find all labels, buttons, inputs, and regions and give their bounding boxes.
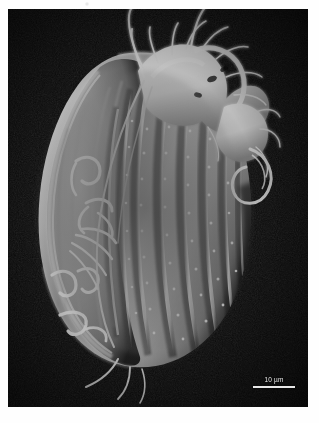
scale-bar-label: 10 µm bbox=[253, 376, 295, 384]
registration-speck bbox=[85, 2, 89, 6]
micrograph-image: 10 µm bbox=[8, 9, 308, 407]
scale-bar: 10 µm bbox=[253, 376, 295, 388]
cell-svg bbox=[26, 37, 276, 382]
scale-bar-line bbox=[253, 386, 295, 388]
ciliate-cell bbox=[26, 37, 276, 382]
micrograph-plate: 10 µm bbox=[0, 0, 319, 423]
